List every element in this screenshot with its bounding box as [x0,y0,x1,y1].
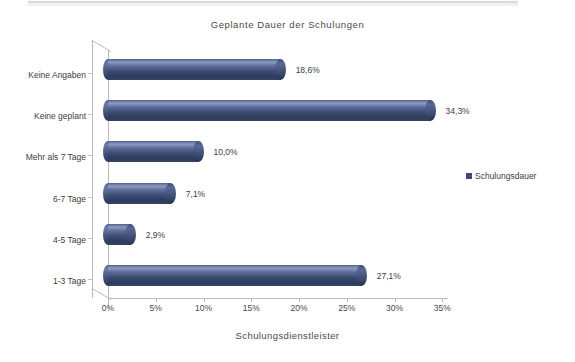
x-axis-tick [299,298,300,302]
x-axis-tick [442,298,443,302]
bar[interactable] [108,224,136,245]
bar-end-cap [193,141,204,162]
x-axis-tick-label: 10% [195,303,212,313]
bar-end-cap [275,59,286,80]
legend: Schulungsdauer [466,171,536,181]
bar-value-label: 10,0% [214,147,238,157]
bar[interactable] [108,141,204,162]
bar-value-label: 7,1% [186,189,205,199]
bar-body [108,183,171,204]
bar-end-cap [165,183,176,204]
y-axis-category-label: Keine Angaben [28,70,86,80]
bar-body [108,59,281,80]
x-axis-tick [156,298,157,302]
bar-end-cap [356,265,367,286]
x-axis-tick-label: 15% [243,303,260,313]
y-axis-category-label: 6-7 Tage [53,194,86,204]
y-axis-tick [88,238,93,239]
bar[interactable] [108,183,176,204]
x-axis-tick [204,298,205,302]
bar-body [108,141,199,162]
y-axis-tick [88,279,93,280]
y-axis-tick [88,155,93,156]
y-axis-tick [88,114,93,115]
plot: 1-3 Tage4-5 Tage6-7 TageMehr als 7 TageK… [0,0,575,362]
y-axis-category-label: Keine geplant [34,111,86,121]
x-axis-tick-label: 25% [338,303,355,313]
bar-end-cap [125,224,136,245]
bar[interactable] [108,265,367,286]
bar-value-label: 18,6% [296,65,320,75]
x-axis-tick [108,298,109,302]
x-axis-tick [347,298,348,302]
x-axis-title: Schulungsdienstleister [0,330,575,341]
y-axis-category-label: 4-5 Tage [53,235,86,245]
x-axis-tick-label: 35% [434,303,451,313]
y-axis-category-label: 1-3 Tage [53,276,86,286]
bar-body [108,265,362,286]
bar-body [108,100,431,121]
x-axis-baseline [108,298,448,299]
y-axis-tick [88,73,93,74]
legend-label: Schulungsdauer [475,171,536,181]
x-axis-tick-label: 20% [290,303,307,313]
legend-swatch-icon [466,173,472,179]
bar-value-label: 34,3% [446,106,470,116]
bar-end-cap [425,100,436,121]
x-axis-tick [395,298,396,302]
x-axis-tick [251,298,252,302]
x-axis-tick-label: 0% [102,303,114,313]
y-axis-category-label: Mehr als 7 Tage [26,152,86,162]
y-axis-tick [88,197,93,198]
x-axis-tick-label: 30% [386,303,403,313]
chart-page: Geplante Dauer der Schulungen 1-3 Tage4-… [0,0,575,362]
bar[interactable] [108,100,436,121]
axis-back-vertical-line [92,40,93,298]
bar-value-label: 2,9% [146,230,165,240]
bar-value-label: 27,1% [377,271,401,281]
x-axis-tick-label: 5% [150,303,162,313]
bar[interactable] [108,59,286,80]
